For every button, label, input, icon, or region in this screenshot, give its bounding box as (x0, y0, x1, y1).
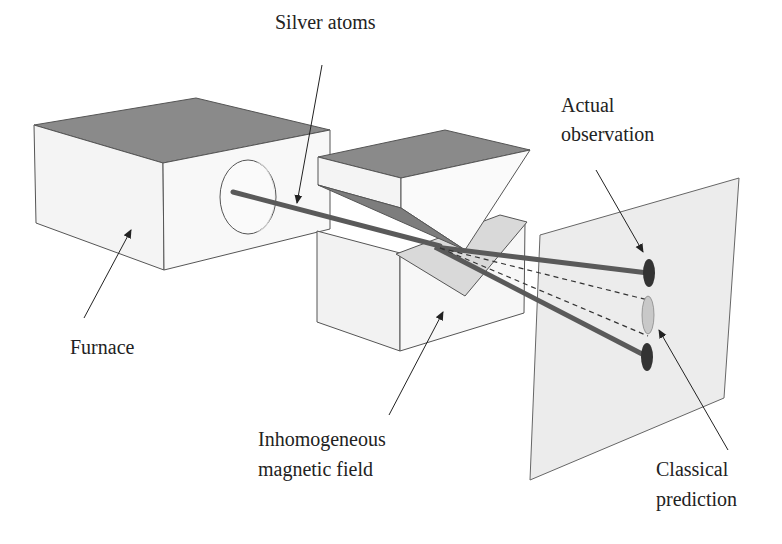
label-furnace: Furnace (70, 335, 134, 360)
actual-spot-lower (641, 343, 653, 371)
detector-screen (530, 178, 739, 480)
label-actual-observation-1: Actual (561, 93, 614, 118)
label-classical-2: prediction (656, 487, 737, 512)
actual-spot-upper (643, 259, 655, 287)
furnace-box (34, 98, 330, 270)
label-magnet-2: magnetic field (258, 457, 373, 482)
classical-spot (642, 296, 654, 334)
label-classical-1: Classical (656, 457, 728, 482)
stern-gerlach-diagram: Silver atoms Actual observation Furnace … (0, 0, 782, 544)
label-magnet-1: Inhomogeneous (258, 427, 386, 452)
label-actual-observation-2: observation (561, 122, 654, 147)
label-silver-atoms: Silver atoms (275, 10, 376, 35)
magnet-lower-block (317, 215, 527, 351)
